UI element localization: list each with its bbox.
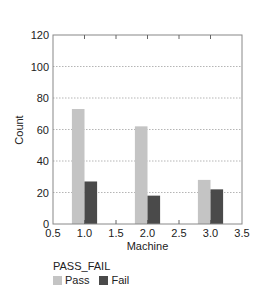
legend-swatch-fail — [99, 276, 108, 285]
bars — [72, 109, 223, 224]
legend-label-pass: Pass — [65, 274, 89, 286]
x-tick-label: 1.0 — [77, 227, 92, 239]
legend-item-pass: Pass — [53, 274, 89, 286]
y-tick-label: 100 — [31, 61, 49, 73]
legend-swatch-pass — [53, 276, 62, 285]
y-tick-label: 120 — [31, 29, 49, 41]
x-tick-label: 3.5 — [234, 227, 249, 239]
x-tick-label: 2.5 — [171, 227, 186, 239]
y-tick-label: 80 — [37, 92, 49, 104]
y-tick-labels: 020406080100120 — [31, 29, 49, 230]
x-tick-label: 0.5 — [45, 227, 60, 239]
bar-pass — [135, 126, 148, 224]
y-axis-label: Count — [13, 115, 25, 144]
bar-fail — [85, 181, 98, 224]
bar-fail — [148, 196, 161, 224]
legend-item-fail: Fail — [99, 274, 129, 286]
legend-title: PASS_FAIL — [53, 260, 129, 272]
y-tick-label: 40 — [37, 155, 49, 167]
x-tick-labels: 0.51.01.52.02.53.03.5 — [45, 227, 249, 239]
legend: PASS_FAIL Pass Fail — [53, 260, 129, 286]
x-tick-label: 3.0 — [203, 227, 218, 239]
x-axis-label: Machine — [127, 240, 169, 252]
bar-pass — [72, 109, 85, 224]
y-tick-label: 20 — [37, 187, 49, 199]
bar-pass — [198, 180, 211, 224]
legend-label-fail: Fail — [111, 274, 129, 286]
bar-chart: 020406080100120 0.51.01.52.02.53.03.5 Ma… — [0, 0, 263, 295]
bar-fail — [211, 189, 224, 224]
x-tick-label: 1.5 — [108, 227, 123, 239]
x-tick-label: 2.0 — [140, 227, 155, 239]
y-tick-label: 60 — [37, 124, 49, 136]
